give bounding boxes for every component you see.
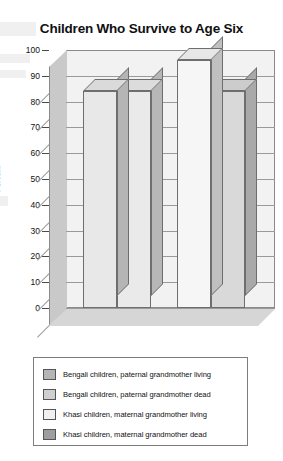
legend-label: Bengali children, paternal grandmother d… <box>63 390 211 399</box>
legend-swatch <box>43 389 56 400</box>
y-axis-tick-mark <box>42 205 49 206</box>
chart-title: Children Who Survive to Age Six <box>0 21 283 36</box>
bar-front-face <box>177 60 211 308</box>
y-axis-tick-labels: 1009080706050403020100 <box>14 42 40 342</box>
y-axis-tick-label: 10 <box>14 277 40 287</box>
legend-label: Khasi children, maternal grandmother dea… <box>63 430 207 439</box>
bar-group <box>49 50 276 326</box>
legend-item: Bengali children, paternal grandmother l… <box>34 364 247 384</box>
y-axis-tick-mark <box>42 76 49 77</box>
bar <box>83 91 117 308</box>
bar-side-face <box>151 67 163 296</box>
legend-swatch <box>43 409 56 420</box>
chart-plot: Percent 1009080706050403020100 <box>0 42 283 342</box>
y-axis-tick-mark <box>42 231 49 232</box>
y-axis-tick-mark <box>42 127 49 128</box>
y-axis-tick-mark <box>42 308 49 309</box>
y-axis-tick-mark <box>42 256 49 257</box>
legend-label: Bengali children, paternal grandmother l… <box>63 370 211 379</box>
bar-side-face <box>245 67 257 296</box>
y-axis-tick-mark <box>42 282 49 283</box>
legend-swatch <box>43 369 56 380</box>
y-axis-tick-label: 0 <box>14 303 40 313</box>
legend-item: Bengali children, paternal grandmother d… <box>34 384 247 404</box>
legend-item: Khasi children, maternal grandmother dea… <box>34 424 247 444</box>
y-axis-tick-marks <box>42 42 49 342</box>
legend-swatch <box>43 429 56 440</box>
y-axis-tick-mark <box>42 102 49 103</box>
y-axis-label: Percent <box>0 166 2 192</box>
y-axis-tick-mark <box>42 153 49 154</box>
chart-legend: Bengali children, paternal grandmother l… <box>33 357 248 446</box>
legend-label: Khasi children, maternal grandmother liv… <box>63 410 207 419</box>
y-axis-tick-label: 40 <box>14 200 40 210</box>
y-axis-tick-label: 90 <box>14 71 40 81</box>
y-axis-tick-label: 60 <box>14 148 40 158</box>
y-axis-tick-mark <box>42 50 49 51</box>
bar-front-face <box>83 91 117 308</box>
plot-area <box>49 50 275 324</box>
legend-item: Khasi children, maternal grandmother liv… <box>34 404 247 424</box>
y-axis-tick-label: 100 <box>14 45 40 55</box>
bar-side-face <box>211 36 223 296</box>
y-axis-tick-mark <box>42 179 49 180</box>
y-axis-tick-label: 50 <box>14 174 40 184</box>
bar <box>177 60 211 308</box>
bar-side-face <box>117 67 129 296</box>
